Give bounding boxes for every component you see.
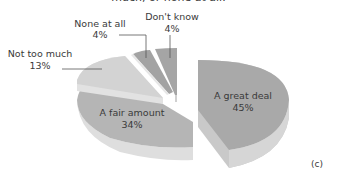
label-great-deal-pct: 45%: [232, 102, 253, 113]
label-not-too-much-pct: 13%: [29, 60, 50, 71]
label-not-too-much-name: Not too much: [8, 48, 73, 59]
label-none-at-all-name: None at all: [74, 18, 125, 29]
label-dont-know-pct: 4%: [164, 23, 179, 34]
label-none-at-all-pct: 4%: [92, 29, 107, 40]
pie-chart: Not too much 13% None at all 4% Don't kn…: [0, 0, 337, 179]
slice-a-great-deal: [198, 60, 289, 168]
label-great-deal-name: A great deal: [214, 90, 272, 101]
panel-label: (c): [311, 159, 323, 169]
label-fair-amount-name: A fair amount: [100, 107, 165, 118]
label-fair-amount-pct: 34%: [121, 119, 142, 130]
label-dont-know-name: Don't know: [145, 11, 199, 22]
